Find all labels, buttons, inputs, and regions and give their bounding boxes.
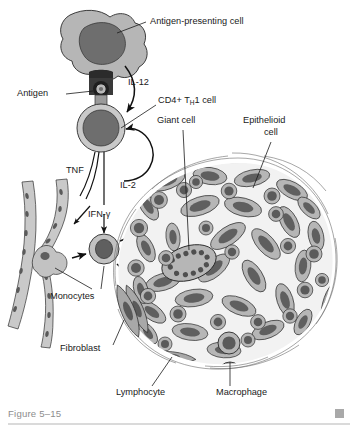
monocyte	[89, 234, 119, 264]
figure-caption: Figure 5–15	[8, 408, 61, 419]
label-cd4-th1-tail: 1 cell	[195, 95, 216, 105]
apc-nucleus	[79, 23, 125, 65]
label-macrophage: Macrophage	[216, 387, 267, 397]
macrophage-cell-upper	[218, 332, 240, 354]
label-giant-cell: Giant cell	[157, 115, 195, 125]
label-cd4-th1-main: CD4+ T	[158, 95, 190, 105]
label-cd4-th1-cell: CD4+ TH1 cell	[158, 95, 216, 106]
cd4-th1-cell	[77, 104, 125, 152]
label-antigen: Antigen	[17, 88, 48, 98]
label-monocytes: Monocytes	[50, 291, 95, 301]
label-il-2: IL-2	[120, 180, 136, 190]
granuloma-formation-diagram: Antigen-presenting cell Antigen IL-12 CD…	[0, 0, 358, 434]
label-antigen-presenting-cell: Antigen-presenting cell	[150, 16, 243, 26]
square-marker-icon	[335, 409, 344, 418]
mhc-top	[89, 70, 113, 78]
label-epithelioid-cell-line1: Epithelioid	[243, 115, 285, 125]
label-tnf: TNF	[66, 165, 84, 175]
figure-container: Antigen-presenting cell Antigen IL-12 CD…	[0, 0, 358, 434]
label-ifn-gamma: IFN-γ	[88, 209, 111, 219]
label-epithelioid-cell-line2: cell	[264, 127, 278, 137]
extravasating-monocyte-nucleus	[40, 252, 49, 260]
th1-nucleus	[83, 110, 119, 146]
antigen-core	[99, 87, 103, 91]
label-lymphocyte: Lymphocyte	[116, 387, 165, 397]
monocyte-nucleus	[95, 239, 112, 258]
label-il-12: IL-12	[128, 77, 149, 87]
label-fibroblast: Fibroblast	[60, 343, 101, 353]
